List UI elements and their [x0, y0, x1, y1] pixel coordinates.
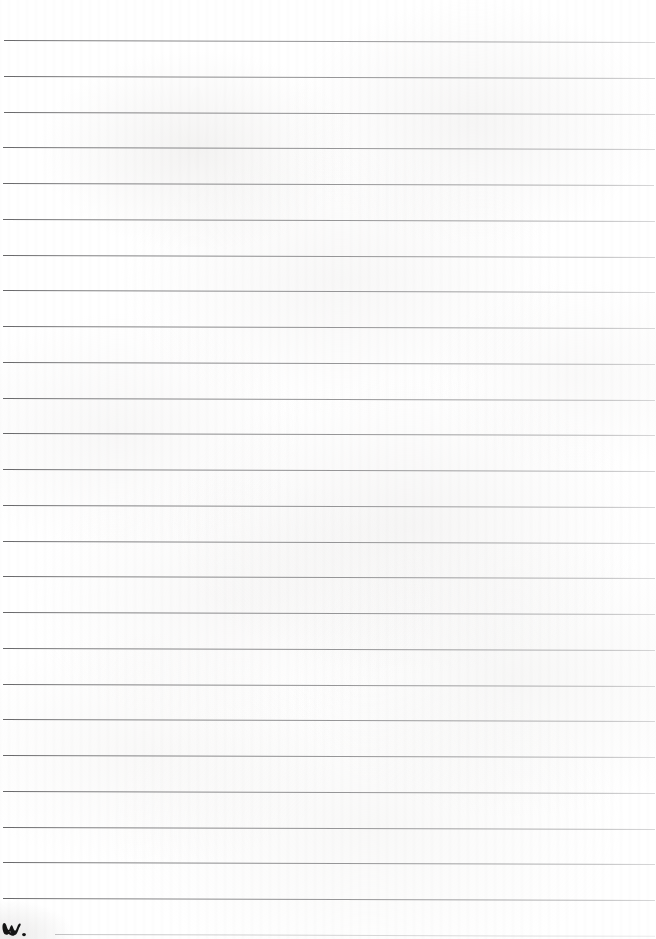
- rule-line: [3, 541, 655, 544]
- rule-line: [3, 469, 655, 472]
- rule-line: [3, 362, 655, 365]
- rule-line: [3, 183, 654, 186]
- rule-line: [3, 648, 655, 651]
- rule-line: [3, 255, 655, 258]
- rule-line: [3, 326, 655, 329]
- rule-line: [3, 219, 655, 222]
- rule-line: [3, 862, 655, 865]
- rule-line: [3, 612, 655, 615]
- rule-line: [3, 398, 655, 401]
- ruled-lines: [0, 0, 656, 939]
- rule-line: [4, 40, 655, 43]
- scanned-page: Blank ruled notebook page (scan): [0, 0, 656, 939]
- rule-line: [4, 76, 655, 79]
- rule-line: [3, 791, 655, 794]
- rule-line: [3, 433, 655, 436]
- rule-line: [55, 934, 655, 937]
- rule-line: [3, 827, 655, 830]
- rule-line: [3, 576, 655, 579]
- rule-line: [3, 684, 655, 687]
- rule-line: [3, 719, 655, 722]
- rule-line: [3, 898, 655, 901]
- rule-line: [3, 755, 655, 758]
- rule-line: [3, 147, 655, 150]
- rule-line: [3, 505, 655, 508]
- ink-mark: [2, 921, 26, 937]
- rule-line: [4, 112, 655, 115]
- rule-line: [3, 290, 655, 293]
